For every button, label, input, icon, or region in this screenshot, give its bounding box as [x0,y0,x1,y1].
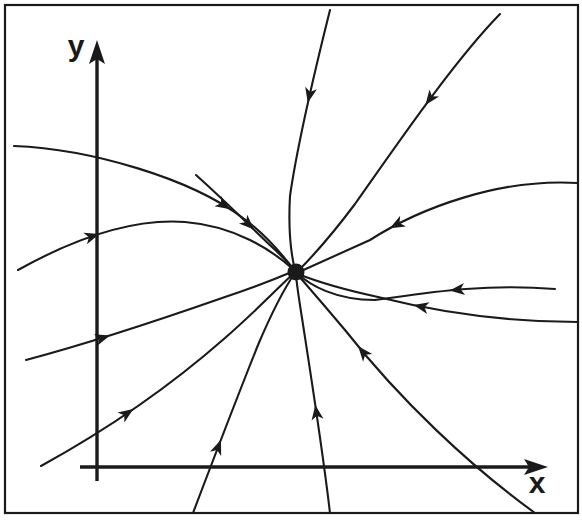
phase-portrait-figure: x y [0,0,582,522]
x-axis-label: x [529,466,546,499]
critical-point-marker [288,264,305,281]
y-axis-label: y [68,29,85,62]
phase-portrait-canvas: x y [0,0,582,522]
figure-background [0,0,582,522]
